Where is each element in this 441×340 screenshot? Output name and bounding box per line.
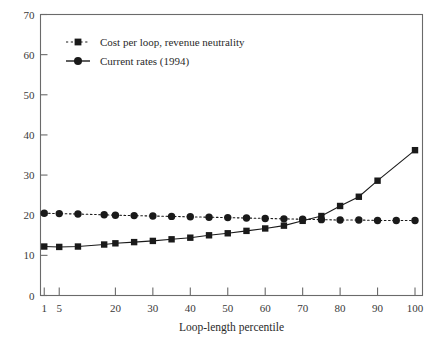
- y-tick-label: 70: [24, 9, 36, 21]
- x-tick-label: 100: [407, 302, 424, 314]
- chart-container: 010203040506070152030405060708090100Loop…: [0, 0, 441, 340]
- data-point-1: [187, 213, 194, 220]
- x-tick-label: 70: [297, 302, 309, 314]
- data-point-0: [187, 234, 193, 240]
- data-point-1: [168, 213, 175, 220]
- data-point-1: [224, 214, 231, 221]
- data-point-0: [150, 238, 156, 244]
- data-point-1: [355, 216, 362, 223]
- y-tick-label: 40: [24, 129, 36, 141]
- data-point-0: [225, 230, 231, 236]
- data-point-1: [56, 210, 63, 217]
- x-tick-label: 30: [147, 302, 159, 314]
- plot-frame: [41, 15, 423, 296]
- x-tick-label: 1: [41, 302, 47, 314]
- x-tick-label: 60: [260, 302, 272, 314]
- x-tick-label: 20: [110, 302, 122, 314]
- data-point-1: [112, 212, 119, 219]
- data-point-0: [101, 241, 107, 247]
- data-point-0: [75, 243, 81, 249]
- legend-marker-1: [74, 57, 82, 65]
- x-tick-label: 40: [185, 302, 197, 314]
- data-point-0: [337, 203, 343, 209]
- data-point-1: [100, 211, 107, 218]
- x-tick-label: 80: [335, 302, 347, 314]
- data-point-1: [411, 217, 418, 224]
- data-point-1: [374, 217, 381, 224]
- data-point-0: [374, 177, 380, 183]
- line-chart: 010203040506070152030405060708090100Loop…: [0, 0, 441, 340]
- data-point-0: [262, 225, 268, 231]
- data-point-1: [205, 214, 212, 221]
- x-tick-label: 50: [222, 302, 234, 314]
- data-point-0: [168, 236, 174, 242]
- data-point-1: [74, 210, 81, 217]
- data-point-1: [393, 217, 400, 224]
- legend-marker-0: [75, 39, 82, 46]
- y-tick-label: 0: [29, 290, 35, 302]
- x-tick-label: 90: [372, 302, 384, 314]
- data-point-1: [318, 216, 325, 223]
- data-point-1: [41, 210, 48, 217]
- legend-label-1: Current rates (1994): [100, 55, 190, 68]
- y-tick-label: 50: [24, 89, 36, 101]
- data-point-0: [206, 232, 212, 238]
- data-point-1: [280, 215, 287, 222]
- y-tick-label: 20: [24, 209, 36, 221]
- data-point-0: [281, 222, 287, 228]
- data-point-1: [299, 216, 306, 223]
- data-point-0: [112, 240, 118, 246]
- data-point-1: [262, 215, 269, 222]
- data-point-0: [412, 147, 418, 153]
- data-point-1: [149, 212, 156, 219]
- legend-label-0: Cost per loop, revenue neutrality: [100, 36, 245, 48]
- y-tick-label: 10: [24, 249, 36, 261]
- data-point-0: [356, 194, 362, 200]
- data-point-1: [243, 214, 250, 221]
- data-point-0: [41, 243, 47, 249]
- data-point-1: [130, 212, 137, 219]
- x-tick-label: 5: [56, 302, 62, 314]
- data-point-0: [131, 239, 137, 245]
- data-point-0: [243, 228, 249, 234]
- data-point-0: [56, 244, 62, 250]
- data-point-1: [336, 216, 343, 223]
- y-tick-label: 60: [24, 49, 36, 61]
- x-axis-title: Loop-length percentile: [179, 321, 284, 334]
- y-tick-label: 30: [24, 169, 36, 181]
